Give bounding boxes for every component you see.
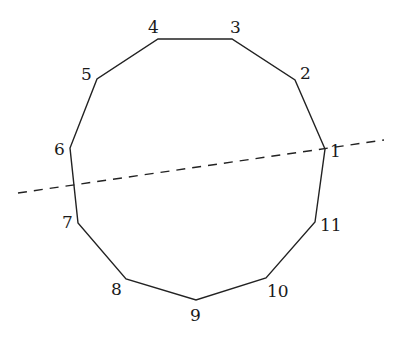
vertex-label-4: 4: [148, 17, 159, 37]
vertex-labels: 1234567891011: [54, 17, 342, 325]
vertex-label-1: 1: [330, 141, 341, 161]
vertex-label-9: 9: [190, 305, 201, 325]
vertex-label-10: 10: [267, 281, 289, 301]
hendecagon-outline: [70, 39, 325, 300]
vertex-label-3: 3: [230, 17, 241, 37]
vertex-label-7: 7: [62, 212, 73, 232]
vertex-label-2: 2: [300, 63, 311, 83]
vertex-label-11: 11: [320, 215, 342, 235]
polygon-diagram: 1234567891011: [0, 0, 404, 340]
vertex-label-8: 8: [111, 279, 122, 299]
vertex-label-6: 6: [54, 139, 65, 159]
vertex-label-5: 5: [81, 64, 92, 84]
